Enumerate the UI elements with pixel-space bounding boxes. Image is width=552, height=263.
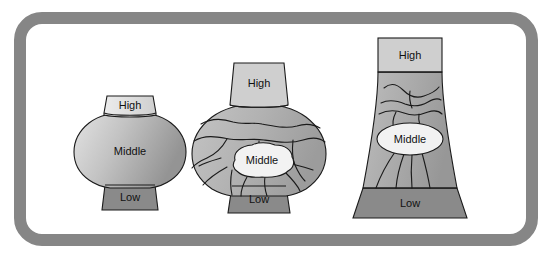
shape-1-high-region [104,96,156,117]
shape-1-middle-region [74,112,186,188]
shape-3-low-region [353,188,467,218]
shape-3-middle-ellipse [377,123,443,155]
shape-3-high-region [378,38,442,72]
shape-2-high-region [230,63,288,107]
figure-root: High Middle Low [0,0,552,263]
shape-2-middle-callout [233,143,293,178]
diagram-canvas: High Middle Low [0,0,552,263]
shape-1-low-region [102,185,158,210]
